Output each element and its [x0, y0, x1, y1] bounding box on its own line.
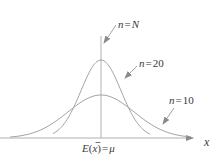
curve-n-10	[10, 95, 191, 137]
equals-sign: =	[125, 18, 131, 30]
n-value: 20	[153, 57, 165, 69]
label-n-10: n=10	[163, 94, 194, 124]
svg-text:n=N: n=N	[118, 18, 140, 30]
equals-sign: =	[176, 94, 182, 106]
label-n-20: n=20	[125, 57, 164, 78]
equals-sign: =	[146, 57, 152, 69]
pointer-arrow-n-N	[104, 25, 116, 43]
pointer-arrow-n-10	[163, 108, 174, 124]
n-value: 10	[183, 94, 195, 106]
pointer-arrow-n-20	[125, 66, 137, 78]
mu-symbol: μ	[108, 142, 115, 154]
x-axis-label: x	[203, 135, 210, 149]
n-symbol: n	[118, 18, 124, 30]
n-symbol: n	[169, 94, 175, 106]
label-n-N: n=N	[104, 18, 140, 43]
equals-sign: =	[102, 142, 108, 154]
sampling-distribution-figure: x n=N n=20 n=10 E(x)=μ	[0, 0, 220, 163]
svg-text:E(x)=μ: E(x)=μ	[81, 142, 115, 155]
close-paren: )	[97, 142, 101, 155]
curve-n-20	[53, 60, 150, 134]
n-value: N	[131, 18, 140, 30]
svg-text:n=10: n=10	[169, 94, 194, 106]
svg-text:n=20: n=20	[139, 57, 164, 69]
n-symbol: n	[139, 57, 145, 69]
expected-value-label: E(x)=μ	[81, 142, 115, 155]
